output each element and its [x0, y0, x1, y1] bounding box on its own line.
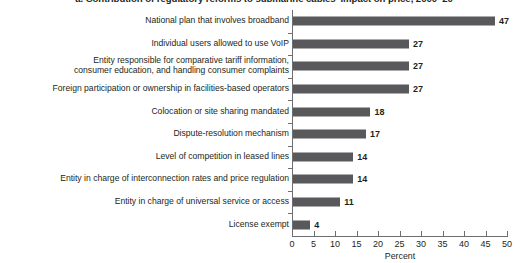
bar	[293, 17, 495, 26]
bar-track	[293, 17, 495, 26]
x-axis-line	[292, 236, 508, 237]
bar-track	[293, 85, 409, 94]
bar-value-label: 27	[413, 39, 423, 49]
category-label: Foreign participation or ownership in fa…	[9, 84, 289, 94]
bar-track	[293, 130, 366, 139]
bar	[293, 220, 310, 229]
y-axis-tick	[288, 100, 292, 101]
bar	[293, 107, 370, 116]
x-axis-tick-label: 20	[373, 239, 383, 249]
x-axis-tick-label: 35	[437, 239, 447, 249]
y-axis-tick	[288, 213, 292, 214]
category-label: Individual users allowed to use VoIP	[9, 39, 289, 49]
bar-value-label: 4	[314, 220, 319, 230]
y-axis-tick	[288, 55, 292, 56]
bar	[293, 62, 409, 71]
bar-row: Individual users allowed to use VoIP27	[0, 33, 528, 56]
y-axis-tick	[288, 78, 292, 79]
x-axis-title: Percent	[292, 251, 508, 261]
bar	[293, 130, 366, 139]
x-axis-tick-label: 0	[289, 239, 294, 249]
y-axis-tick	[288, 168, 292, 169]
x-axis-tick-label: 40	[459, 239, 469, 249]
bar-value-label: 47	[499, 16, 509, 26]
y-axis-tick	[288, 146, 292, 147]
bar-row: Colocation or site sharing mandated18	[0, 100, 528, 123]
bar-row: Foreign participation or ownership in fa…	[0, 78, 528, 101]
x-axis-tick-label: 10	[330, 239, 340, 249]
bar	[293, 152, 353, 161]
bar-row: National plan that involves broadband47	[0, 10, 528, 33]
y-axis-tick	[288, 33, 292, 34]
bar-value-label: 14	[357, 152, 367, 162]
bar	[293, 39, 409, 48]
bar-value-label: 27	[413, 61, 423, 71]
category-label: Dispute-resolution mechanism	[9, 129, 289, 139]
category-label: Colocation or site sharing mandated	[9, 107, 289, 117]
bar-track	[293, 39, 409, 48]
bar-row: Entity in charge of universal service or…	[0, 191, 528, 214]
bar-track	[293, 198, 340, 207]
bar-value-label: 11	[344, 197, 354, 207]
category-label: National plan that involves broadband	[9, 16, 289, 26]
bar	[293, 175, 353, 184]
x-axis-tick-label: 15	[351, 239, 361, 249]
bar-chart-figure: a. Contribution of regulatory reforms to…	[0, 0, 528, 263]
bar-value-label: 27	[413, 84, 423, 94]
x-axis-tick-label: 50	[502, 239, 512, 249]
bar-row: Entity in charge of interconnection rate…	[0, 168, 528, 191]
bar-track	[293, 107, 370, 116]
bar-rows-container: National plan that involves broadband47I…	[0, 10, 528, 236]
category-label: Entity responsible for comparative tarif…	[9, 57, 289, 77]
bar-row: License exempt4	[0, 213, 528, 236]
x-axis-tick-label: 5	[311, 239, 316, 249]
x-axis-tick-label: 30	[416, 239, 426, 249]
category-label: License exempt	[9, 220, 289, 230]
category-label: Entity in charge of interconnection rate…	[9, 175, 289, 185]
y-axis-tick	[288, 123, 292, 124]
bar-value-label: 14	[357, 174, 367, 184]
bar-row: Entity responsible for comparative tarif…	[0, 55, 528, 78]
bar-value-label: 18	[374, 107, 384, 117]
bar-track	[293, 220, 310, 229]
bar-value-label: 17	[370, 129, 380, 139]
x-axis-tick-label: 25	[394, 239, 404, 249]
bar-row: Level of competition in leased lines14	[0, 146, 528, 169]
bar	[293, 198, 340, 207]
bar-track	[293, 152, 353, 161]
bar	[293, 85, 409, 94]
chart-title: a. Contribution of regulatory reforms to…	[0, 0, 528, 4]
y-axis-tick	[288, 191, 292, 192]
category-label: Entity in charge of universal service or…	[9, 197, 289, 207]
x-axis-tick-label: 45	[480, 239, 490, 249]
bar-track	[293, 175, 353, 184]
category-label: Level of competition in leased lines	[9, 152, 289, 162]
bar-row: Dispute-resolution mechanism17	[0, 123, 528, 146]
bar-track	[293, 62, 409, 71]
